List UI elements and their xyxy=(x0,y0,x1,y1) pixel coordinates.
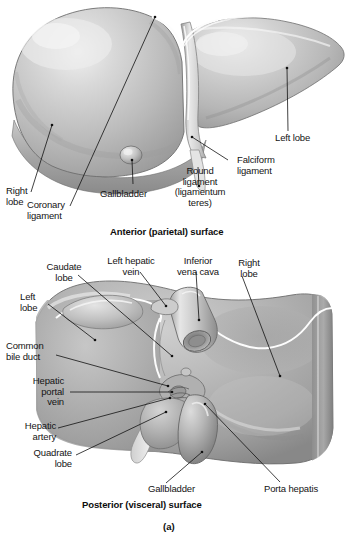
label-posterior-right-lobe: Right lobe xyxy=(228,258,270,279)
label-posterior-hepatic-artery: Hepatic artery xyxy=(2,421,56,442)
label-posterior-hepatic-portal-vein: Hepatic portal vein xyxy=(2,376,64,408)
liver-anatomy-figure: Right lobe Coronary ligament Gallbladder… xyxy=(0,0,350,542)
label-anterior-coronary-ligament: Coronary ligament xyxy=(27,200,65,221)
anterior-gallbladder xyxy=(120,146,142,164)
label-anterior-left-lobe: Left lobe xyxy=(275,133,310,144)
posterior-bare-area xyxy=(200,306,324,374)
anterior-gallbladder-highlight xyxy=(124,149,133,155)
label-anterior-right-lobe: Right lobe xyxy=(6,186,27,207)
label-posterior-quadrate-lobe: Quadrate lobe xyxy=(8,448,72,469)
caption-posterior-surface: Posterior (visceral) surface xyxy=(82,499,202,510)
label-posterior-common-bile-duct: Common bile duct xyxy=(6,341,44,362)
label-posterior-gallbladder: Gallbladder xyxy=(148,484,195,495)
label-anterior-falciform-ligament: Falciform ligament xyxy=(237,155,275,176)
label-posterior-inferior-vena-cava: Inferior vena cava xyxy=(170,256,226,277)
bile-duct-stump xyxy=(181,368,191,376)
posterior-liver-drawing xyxy=(36,272,333,483)
label-posterior-left-lobe: Left lobe xyxy=(20,292,37,313)
label-anterior-gallbladder: Gallbladder xyxy=(100,189,147,200)
label-posterior-caudate-lobe: Caudate lobe xyxy=(36,262,92,283)
label-posterior-porta-hepatis: Porta hepatis xyxy=(264,484,318,495)
label-posterior-left-hepatic-vein: Left hepatic vein xyxy=(100,256,162,277)
caption-anterior-surface: Anterior (parietal) surface xyxy=(110,226,223,237)
label-anterior-round-ligament: Round ligament (ligamentum teres) xyxy=(167,166,233,208)
panel-letter: (a) xyxy=(163,521,175,532)
